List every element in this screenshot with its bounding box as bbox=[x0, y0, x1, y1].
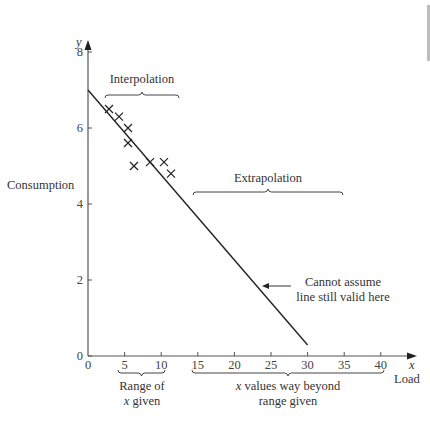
data-points bbox=[105, 105, 175, 178]
x-tick-label: 15 bbox=[192, 358, 205, 372]
x-axis-symbol: x bbox=[408, 358, 415, 372]
y-tick-label: 6 bbox=[77, 121, 83, 135]
range-label-line-1: Range of bbox=[119, 379, 165, 393]
data-point-cross bbox=[160, 158, 168, 166]
beyond-label-line-1: x values way beyond bbox=[235, 379, 341, 393]
interpolation-brace bbox=[105, 92, 179, 98]
y-axis-arrow-icon bbox=[85, 40, 92, 50]
note-line-2: line still valid here bbox=[296, 290, 390, 304]
data-point-cross bbox=[130, 162, 138, 170]
note-arrow-head-icon bbox=[262, 283, 269, 289]
data-point-cross bbox=[115, 113, 123, 121]
x-tick-label: 20 bbox=[228, 358, 241, 372]
x-tick-label: 25 bbox=[265, 358, 278, 372]
x-ticks: 0 5 10 15 20 25 30 35 40 bbox=[85, 352, 387, 372]
x-tick-label: 35 bbox=[338, 358, 351, 372]
note-line-1: Cannot assume bbox=[305, 275, 381, 289]
y-tick-label: 8 bbox=[77, 45, 83, 59]
beyond-range-brace bbox=[192, 370, 384, 376]
data-point-cross bbox=[146, 158, 154, 166]
x-tick-label: 40 bbox=[375, 358, 388, 372]
x-axis-label: Load bbox=[394, 372, 420, 386]
y-axis-label: Consumption bbox=[7, 178, 75, 192]
x-tick-label: 10 bbox=[155, 358, 168, 372]
data-point-cross bbox=[167, 170, 175, 178]
extrapolation-label: Extrapolation bbox=[234, 171, 303, 185]
data-point-cross bbox=[105, 105, 113, 113]
data-point-cross bbox=[124, 124, 132, 132]
x-tick-label: 5 bbox=[121, 358, 127, 372]
x-tick-label: 0 bbox=[85, 358, 91, 372]
regression-line bbox=[88, 90, 308, 345]
y-tick-label: 2 bbox=[77, 273, 83, 287]
x-tick-label: 30 bbox=[301, 358, 314, 372]
y-tick-label: 0 bbox=[77, 349, 83, 363]
beyond-label-line-2: range given bbox=[259, 394, 318, 408]
extrapolation-brace bbox=[193, 189, 343, 195]
data-point-cross bbox=[124, 139, 132, 147]
chart-canvas: y x Load 0 2 4 6 8 0 5 10 15 20 25 30 35… bbox=[0, 0, 430, 422]
range-label-line-2: x given bbox=[123, 394, 161, 408]
y-tick-label: 4 bbox=[77, 197, 84, 211]
interpolation-label: Interpolation bbox=[110, 72, 175, 86]
